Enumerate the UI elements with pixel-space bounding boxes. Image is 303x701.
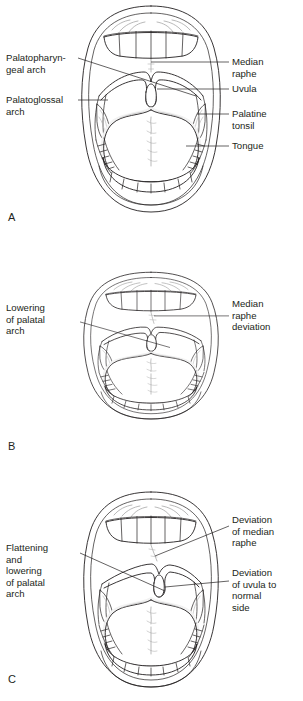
panel-b-lowered-arch: B Lowering of palatal arch Median raphe …: [0, 235, 303, 463]
label-deviation-of-median-raphe: Deviation of median raphe: [232, 514, 302, 549]
label-flattening-and-lowering-of-palatal-arch: Flattening and lowering of palatal arch: [6, 542, 78, 600]
label-palatoglossal-arch: Palatoglossal arch: [6, 94, 82, 117]
uvula-shape-deviated: [154, 575, 165, 597]
label-tongue: Tongue: [232, 140, 300, 152]
panel-letter-c: C: [8, 674, 16, 685]
label-lowering-of-palatal-arch: Lowering of palatal arch: [6, 302, 82, 337]
label-median-raphe-deviation: Median raphe deviation: [232, 298, 302, 333]
upper-teeth: [106, 516, 196, 544]
uvula-shape: [146, 84, 157, 107]
panel-letter-b: B: [8, 441, 16, 452]
panel-b-illustration: [0, 235, 303, 463]
panel-letter-a: A: [8, 212, 16, 223]
panel-c-flattened-arch: C Flattening and lowering of palatal arc…: [0, 463, 303, 701]
label-palatopharyngeal-arch: Palatopharyn- geal arch: [6, 52, 80, 75]
label-median-raphe: Median raphe: [232, 56, 300, 79]
label-palatine-tonsil: Palatine tonsil: [232, 108, 300, 131]
upper-teeth: [106, 290, 196, 311]
panel-a-normal: A Palatopharyn- geal arch Palatoglossal …: [0, 0, 303, 235]
label-uvula: Uvula: [232, 83, 300, 95]
anatomy-figure: A Palatopharyn- geal arch Palatoglossal …: [0, 0, 303, 701]
upper-teeth: [104, 31, 198, 59]
label-deviation-of-uvula-to-normal-side: Deviation of uvula to normal side: [232, 567, 302, 613]
